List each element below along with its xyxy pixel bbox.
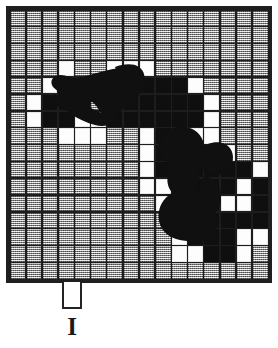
grid-cell bbox=[221, 78, 236, 93]
grid-cell bbox=[11, 44, 26, 59]
grid-cell bbox=[253, 11, 268, 26]
grid-cell bbox=[124, 44, 139, 59]
grid-cell bbox=[59, 128, 74, 143]
grid-cell bbox=[237, 213, 252, 228]
grid-cell bbox=[253, 263, 268, 278]
grid-cell bbox=[59, 61, 74, 76]
grid-cell bbox=[11, 11, 26, 26]
grid-cell bbox=[204, 179, 219, 194]
grid-cell bbox=[221, 162, 236, 177]
grid-cell bbox=[172, 95, 187, 110]
grid-cell bbox=[11, 27, 26, 42]
grid-cell bbox=[43, 213, 58, 228]
grid-cell bbox=[156, 95, 171, 110]
grid-cell bbox=[91, 95, 106, 110]
grid-cell bbox=[221, 95, 236, 110]
grid-cell bbox=[27, 44, 42, 59]
grid-cell bbox=[140, 112, 155, 127]
grid-cell bbox=[59, 11, 74, 26]
grid-cell bbox=[156, 112, 171, 127]
grid-cell bbox=[204, 112, 219, 127]
grid-cell bbox=[253, 179, 268, 194]
grid-cell bbox=[75, 44, 90, 59]
grid-cell bbox=[91, 179, 106, 194]
grid-cell bbox=[172, 44, 187, 59]
grid-cell bbox=[221, 27, 236, 42]
grid-cell bbox=[11, 145, 26, 160]
grid-cell bbox=[75, 213, 90, 228]
grid-cell bbox=[27, 112, 42, 127]
grid-cell bbox=[75, 145, 90, 160]
grid-cell bbox=[204, 44, 219, 59]
grid-cell bbox=[188, 179, 203, 194]
grid-cell bbox=[59, 112, 74, 127]
grid-cell bbox=[221, 44, 236, 59]
grid-cell bbox=[140, 213, 155, 228]
grid-cell bbox=[253, 112, 268, 127]
grid-cell bbox=[221, 263, 236, 278]
grid-cell bbox=[140, 229, 155, 244]
grid-cell bbox=[43, 78, 58, 93]
grid-cell bbox=[107, 61, 122, 76]
grid-cell bbox=[188, 246, 203, 261]
grid-cell bbox=[204, 246, 219, 261]
grid-cell bbox=[27, 229, 42, 244]
grid-cell bbox=[237, 263, 252, 278]
grid-cell bbox=[172, 196, 187, 211]
grid-cell bbox=[107, 162, 122, 177]
grid-cell bbox=[156, 78, 171, 93]
grid-cell bbox=[156, 246, 171, 261]
grid-cell bbox=[91, 263, 106, 278]
grid-cell bbox=[75, 246, 90, 261]
grid-cell bbox=[237, 128, 252, 143]
grid-cell bbox=[204, 61, 219, 76]
grid-cell bbox=[124, 229, 139, 244]
grid-cell bbox=[221, 213, 236, 228]
grid-cell bbox=[91, 162, 106, 177]
grid-cell bbox=[221, 179, 236, 194]
grid-cell bbox=[204, 95, 219, 110]
grid-cell bbox=[204, 196, 219, 211]
grid-cell bbox=[27, 27, 42, 42]
grid-cell bbox=[221, 11, 236, 26]
grid-cell bbox=[11, 128, 26, 143]
grid-cell bbox=[221, 128, 236, 143]
grid-cell bbox=[91, 78, 106, 93]
grid-cell bbox=[237, 145, 252, 160]
grid-cell bbox=[253, 27, 268, 42]
grid-cell bbox=[188, 263, 203, 278]
grid-cells bbox=[9, 9, 269, 280]
grid-cell bbox=[59, 246, 74, 261]
grid-cell bbox=[75, 112, 90, 127]
grid-cell bbox=[156, 229, 171, 244]
grid-cell bbox=[43, 95, 58, 110]
grid-cell bbox=[140, 78, 155, 93]
scan-figure: I bbox=[0, 0, 278, 348]
grid-cell bbox=[43, 11, 58, 26]
grid-cell bbox=[140, 61, 155, 76]
grid-cell bbox=[124, 95, 139, 110]
grid-cell bbox=[140, 11, 155, 26]
grid-cell bbox=[11, 78, 26, 93]
grid-cell bbox=[11, 246, 26, 261]
grid-cell bbox=[253, 196, 268, 211]
grid-cell bbox=[91, 128, 106, 143]
grid-cell bbox=[107, 145, 122, 160]
grid-cell bbox=[204, 128, 219, 143]
grid-cell bbox=[253, 95, 268, 110]
grid-cell bbox=[75, 179, 90, 194]
grid-cell bbox=[204, 263, 219, 278]
grid-cell bbox=[253, 128, 268, 143]
grid-cell bbox=[172, 179, 187, 194]
grid-cell bbox=[204, 11, 219, 26]
grid-cell bbox=[204, 229, 219, 244]
grid-cell bbox=[221, 61, 236, 76]
grid-cell bbox=[91, 196, 106, 211]
grid-cell bbox=[156, 145, 171, 160]
grid-cell bbox=[188, 196, 203, 211]
grid-cell bbox=[156, 196, 171, 211]
grid-cell bbox=[43, 44, 58, 59]
grid-cell bbox=[237, 61, 252, 76]
grid-cell bbox=[172, 112, 187, 127]
grid-cell bbox=[253, 78, 268, 93]
